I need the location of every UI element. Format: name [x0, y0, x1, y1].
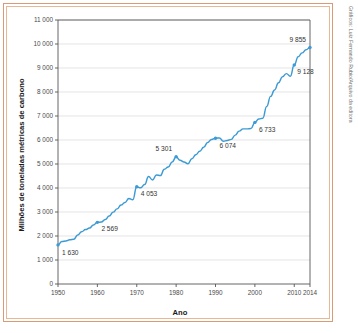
x-axis-tick-labels: 19501960197019801990200020102014 [51, 289, 318, 296]
data-point-marker [135, 185, 138, 188]
x-axis-tick-label: 1960 [90, 289, 105, 296]
y-axis-tick-label: 5 000 [37, 160, 53, 167]
data-point-marker [293, 63, 296, 66]
y-axis-tick-label: 6 000 [37, 136, 53, 143]
data-point-label: 2 569 [101, 225, 118, 232]
y-axis-tick-label: 2 000 [37, 232, 53, 239]
y-axis-tick-label: 1 000 [37, 256, 53, 263]
y-axis-tick-label: 4 000 [37, 184, 53, 191]
data-point-label: 9 128 [297, 68, 314, 75]
data-point-label: 5 301 [156, 145, 173, 152]
y-axis-tick-label: 0 [49, 280, 53, 287]
x-axis-tick-label: 2000 [248, 289, 263, 296]
chart-figure: 01 0002 0003 0004 0005 0006 0007 0008 00… [0, 0, 358, 333]
y-axis-tick-labels: 01 0002 0003 0004 0005 0006 0007 0008 00… [33, 16, 53, 287]
data-point-label: 4 053 [141, 190, 158, 197]
y-axis-tick-label: 7 000 [37, 112, 53, 119]
data-point-label: 9 855 [289, 36, 306, 43]
image-credit: Gráficos: Luiz Fernando Rubio/Arquivo da… [344, 6, 358, 326]
data-point-label: 6 074 [220, 142, 237, 149]
data-series-line [58, 47, 310, 244]
y-axis-tick-label: 3 000 [37, 208, 53, 215]
y-axis-tick-label: 11 000 [34, 16, 54, 23]
x-axis-tick-label: 2010 [287, 289, 302, 296]
x-axis-tick-label: 2014 [303, 289, 318, 296]
x-axis-title: Ano [173, 308, 188, 317]
data-point-marker [56, 243, 59, 246]
data-point-label: 6 733 [259, 126, 276, 133]
y-axis-tick-label: 10 000 [33, 40, 53, 47]
plot-frame [58, 20, 310, 284]
data-point-marker [174, 155, 177, 158]
x-axis-tick-label: 1980 [169, 289, 184, 296]
x-axis-tick-marks [58, 284, 310, 287]
data-point-marker [214, 137, 217, 140]
data-point-marker [308, 46, 311, 49]
x-axis-tick-label: 1950 [51, 289, 66, 296]
line-chart: 01 0002 0003 0004 0005 0006 0007 0008 00… [0, 0, 358, 333]
x-axis-tick-label: 1970 [130, 289, 145, 296]
data-point-markers [56, 46, 311, 247]
y-axis-title: Milhões de toneladas métricas de carbono [17, 78, 26, 232]
y-axis-tick-label: 9 000 [37, 64, 53, 71]
data-point-marker [96, 221, 99, 224]
y-axis-tick-label: 8 000 [37, 88, 53, 95]
data-point-marker [253, 121, 256, 124]
data-point-labels: 1 6302 5694 0535 3016 0746 7339 1289 855 [62, 36, 314, 255]
data-point-label: 1 630 [62, 249, 79, 256]
x-axis-tick-label: 1990 [208, 289, 223, 296]
